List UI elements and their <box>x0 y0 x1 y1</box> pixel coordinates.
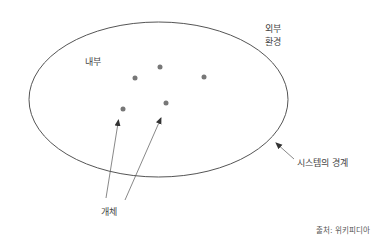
entity-dot <box>164 101 169 106</box>
entity-dot <box>121 107 126 112</box>
inside-label: 내부 <box>85 56 101 68</box>
outside-label-line2: 환경 <box>265 36 281 48</box>
outside-label-line1: 외부 <box>265 23 281 35</box>
system-boundary-ellipse <box>29 22 288 177</box>
entity-dot <box>202 75 207 80</box>
entity-dots <box>121 65 207 112</box>
entity-dot <box>133 76 138 81</box>
boundary-arrow <box>276 143 294 159</box>
entity-dot <box>158 65 163 70</box>
entities-label: 개체 <box>101 206 117 218</box>
entity-arrow-1 <box>106 120 119 198</box>
system-diagram <box>0 0 383 244</box>
entity-arrow-2 <box>125 118 161 200</box>
source-caption: 출처: 위키피디아 <box>316 225 370 237</box>
boundary-label: 시스템의 경계 <box>297 157 348 169</box>
